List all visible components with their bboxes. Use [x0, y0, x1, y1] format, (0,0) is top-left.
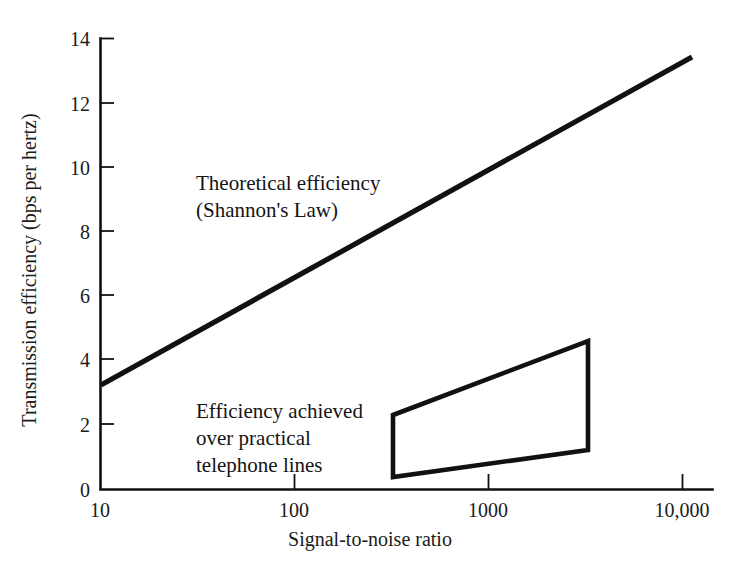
practical-annotation-line-3: telephone lines: [196, 453, 323, 477]
x-axis-tick-labels: 10 100 1000 10,000: [90, 499, 710, 521]
practical-annotation-line-1: Efficiency achieved: [196, 399, 363, 423]
y-tick-label-6: 6: [80, 285, 90, 307]
x-tick-label-1000: 1000: [468, 499, 508, 521]
theoretical-efficiency-annotation: Theoretical efficiency (Shannon's Law): [196, 171, 381, 222]
x-tick-label-100: 100: [279, 499, 309, 521]
axis-lines: [101, 39, 713, 490]
axis-frame: [101, 39, 713, 490]
theoretical-annotation-line-1: Theoretical efficiency: [196, 171, 381, 195]
y-axis-tick-labels: 14 12 10 8 6 4 2 0: [70, 28, 90, 501]
x-tick-label-10000: 10,000: [655, 499, 710, 521]
chart-figure: 14 12 10 8 6 4 2 0 10 100 1000 10,000 Si…: [0, 0, 745, 582]
chart-canvas: 14 12 10 8 6 4 2 0 10 100 1000 10,000 Si…: [0, 0, 745, 582]
theoretical-efficiency-line: [101, 57, 692, 385]
y-tick-label-2: 2: [80, 414, 90, 436]
y-axis-ticks: [101, 103, 115, 424]
y-tick-label-0: 0: [80, 479, 90, 501]
y-tick-label-12: 12: [70, 93, 90, 115]
y-tick-label-10: 10: [70, 157, 90, 179]
y-tick-label-14: 14: [70, 28, 90, 50]
y-tick-label-8: 8: [80, 221, 90, 243]
x-axis-ticks: [295, 474, 683, 490]
practical-efficiency-region: [393, 341, 588, 477]
practical-annotation-line-2: over practical: [196, 426, 311, 450]
x-axis-title: Signal-to-noise ratio: [288, 528, 452, 551]
y-axis-title: Transmission efficiency (bps per hertz): [18, 113, 41, 426]
y-tick-label-4: 4: [80, 349, 90, 371]
practical-efficiency-annotation: Efficiency achieved over practical telep…: [196, 399, 363, 477]
x-tick-label-10: 10: [90, 499, 110, 521]
theoretical-annotation-line-2: (Shannon's Law): [196, 198, 338, 222]
